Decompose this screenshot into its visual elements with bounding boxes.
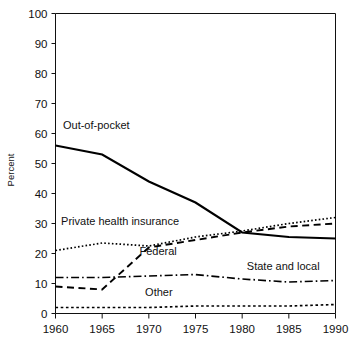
line-chart: 0102030405060708090100 19601965197019751… — [0, 0, 355, 348]
series-line-state-and-local — [56, 275, 336, 283]
x-axis: 1960196519701975198019851990 — [43, 314, 349, 335]
y-tick-label: 100 — [28, 8, 47, 20]
series-line-other — [56, 305, 336, 308]
x-tick-label: 1965 — [89, 323, 115, 335]
y-axis: 0102030405060708090100 — [28, 8, 55, 320]
y-tick-label: 40 — [35, 188, 48, 200]
y-tick-label: 90 — [35, 38, 48, 50]
x-tick-label: 1975 — [183, 323, 209, 335]
series-label-private-health-insurance: Private health insurance — [61, 215, 179, 227]
y-tick-label: 20 — [35, 248, 48, 260]
series-label-out-of-pocket: Out-of-pocket — [63, 119, 130, 131]
y-axis-title: Percent — [5, 153, 16, 186]
chart-container: 0102030405060708090100 19601965197019751… — [0, 0, 355, 348]
y-tick-label: 60 — [35, 128, 48, 140]
x-tick-label: 1970 — [136, 323, 162, 335]
x-tick-label: 1960 — [43, 323, 69, 335]
y-tick-label: 50 — [35, 158, 48, 170]
y-tick-label: 30 — [35, 218, 48, 230]
y-tick-label: 80 — [35, 68, 48, 80]
series-annotations: Out-of-pocketPrivate health insuranceFed… — [61, 119, 320, 298]
series-line-federal — [56, 224, 336, 290]
series-label-other: Other — [145, 286, 173, 298]
y-tick-label: 0 — [41, 308, 47, 320]
series-label-federal: Federal — [140, 245, 177, 257]
y-tick-label: 10 — [35, 278, 48, 290]
series-label-state-and-local: State and local — [247, 260, 320, 272]
y-tick-label: 70 — [35, 98, 48, 110]
x-tick-label: 1990 — [323, 323, 349, 335]
x-tick-label: 1985 — [276, 323, 302, 335]
x-tick-label: 1980 — [229, 323, 255, 335]
